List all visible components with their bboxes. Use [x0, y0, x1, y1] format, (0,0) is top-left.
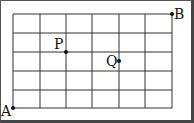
- point-a-dot: [11, 106, 15, 110]
- point-b-label: B: [174, 6, 184, 22]
- point-p-label: P: [54, 36, 63, 52]
- grid-lines: [13, 14, 172, 108]
- grid-diagram: A B P Q: [0, 0, 194, 123]
- point-q-label: Q: [106, 53, 117, 69]
- point-p-dot: [64, 50, 68, 54]
- point-q-dot: [117, 59, 121, 63]
- point-a-label: A: [0, 103, 12, 119]
